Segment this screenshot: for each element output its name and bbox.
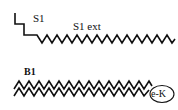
label-ek: e-K — [151, 89, 166, 99]
label-b1: B1 — [24, 67, 36, 77]
b1-chain-upper — [14, 81, 152, 89]
label-s1: S1 — [33, 13, 45, 24]
label-s1-ext: S1 ext — [73, 21, 101, 32]
